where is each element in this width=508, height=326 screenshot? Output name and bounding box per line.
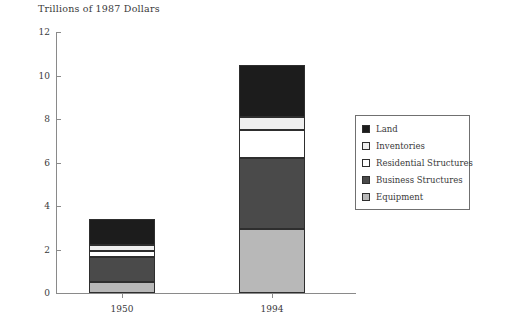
y-tick-mark: [56, 293, 61, 294]
y-tick-mark: [56, 206, 61, 207]
y-tick-mark: [56, 163, 61, 164]
x-tick-mark: [272, 293, 273, 298]
chart-title: Trillions of 1987 Dollars: [38, 3, 160, 14]
y-tick-label: 2: [20, 245, 50, 255]
legend-swatch-icon: [362, 159, 370, 167]
legend-label: Land: [376, 124, 398, 134]
x-tick-label: 1994: [242, 304, 302, 314]
legend-label: Residential Structures: [376, 158, 473, 168]
legend-item[interactable]: Inventories: [362, 141, 425, 151]
x-axis-line: [56, 293, 356, 294]
y-tick-label: 0: [20, 288, 50, 298]
bar-segment-land: [89, 219, 155, 245]
bar-segment-inventories: [239, 117, 305, 130]
y-tick-label: 4: [20, 201, 50, 211]
legend: LandInventoriesResidential StructuresBus…: [355, 115, 470, 210]
bar-segment-residential-structures: [89, 251, 155, 258]
y-tick-mark: [56, 250, 61, 251]
bar-segment-equipment: [239, 229, 305, 293]
legend-item[interactable]: Equipment: [362, 192, 423, 202]
y-tick-label: 12: [20, 27, 50, 37]
legend-item[interactable]: Business Structures: [362, 175, 463, 185]
legend-label: Equipment: [376, 192, 423, 202]
bar-segment-residential-structures: [239, 130, 305, 158]
x-tick-label: 1950: [92, 304, 152, 314]
bar-segment-business-structures: [239, 158, 305, 229]
legend-item[interactable]: Land: [362, 124, 398, 134]
stacked-bar-1950: [89, 32, 155, 293]
legend-item[interactable]: Residential Structures: [362, 158, 473, 168]
legend-swatch-icon: [362, 193, 370, 201]
bar-segment-land: [239, 65, 305, 117]
y-tick-mark: [56, 32, 61, 33]
legend-label: Inventories: [376, 141, 425, 151]
y-tick-label: 8: [20, 114, 50, 124]
x-tick-mark: [122, 293, 123, 298]
bar-segment-business-structures: [89, 257, 155, 282]
stacked-bar-chart: Trillions of 1987 Dollars 024681012 1950…: [0, 0, 508, 326]
y-tick-label: 6: [20, 158, 50, 168]
legend-swatch-icon: [362, 142, 370, 150]
y-tick-label: 10: [20, 71, 50, 81]
y-tick-mark: [56, 119, 61, 120]
stacked-bar-1994: [239, 32, 305, 293]
legend-label: Business Structures: [376, 175, 463, 185]
legend-swatch-icon: [362, 176, 370, 184]
y-tick-mark: [56, 76, 61, 77]
bar-segment-equipment: [89, 282, 155, 293]
bar-segment-inventories: [89, 245, 155, 250]
legend-swatch-icon: [362, 125, 370, 133]
